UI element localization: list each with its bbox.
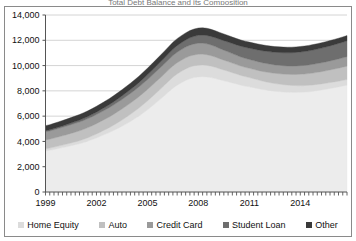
x-tick-label: 2014	[290, 198, 310, 208]
legend-swatch-icon	[223, 222, 229, 228]
x-axis-tick-group	[46, 192, 348, 196]
x-tick-label: 2005	[137, 198, 157, 208]
area-series-group	[46, 28, 348, 192]
y-tick-label: 10,000	[12, 61, 40, 71]
legend-home-equity[interactable]: Home Equity	[18, 220, 79, 230]
stacked-area-chart: 02,0004,0006,0008,00010,00012,00014,000 …	[0, 0, 356, 241]
x-axis-labels: 199920022005200820112014	[35, 198, 310, 208]
legend-label: Credit Card	[156, 220, 202, 230]
y-tick-label: 0	[34, 187, 39, 197]
y-tick-label: 2,000	[17, 162, 40, 172]
legend-credit-card[interactable]: Credit Card	[147, 220, 202, 230]
chart-legend: Home EquityAutoCredit CardStudent LoanOt…	[8, 215, 348, 235]
y-tick-label: 8,000	[17, 86, 40, 96]
legend-swatch-icon	[99, 222, 105, 228]
x-tick-label: 1999	[35, 198, 55, 208]
legend-student-loan[interactable]: Student Loan	[223, 220, 286, 230]
chart-plot-area: 02,0004,0006,0008,00010,00012,00014,000 …	[0, 0, 356, 241]
y-tick-label: 12,000	[12, 35, 40, 45]
x-tick-label: 2011	[240, 198, 259, 208]
legend-label: Auto	[108, 220, 127, 230]
y-tick-label: 6,000	[17, 111, 40, 121]
y-axis-labels: 02,0004,0006,0008,00010,00012,00014,000	[12, 10, 40, 197]
x-tick-label: 2002	[86, 198, 106, 208]
legend-swatch-icon	[306, 222, 312, 228]
legend-label: Other	[315, 220, 338, 230]
legend-swatch-icon	[147, 222, 153, 228]
legend-label: Student Loan	[232, 220, 286, 230]
y-tick-label: 4,000	[17, 137, 40, 147]
y-tick-label: 14,000	[12, 10, 40, 20]
chart-screenshot: Total Debt Balance and its Composition 0…	[0, 0, 356, 241]
legend-other[interactable]: Other	[306, 220, 338, 230]
legend-auto[interactable]: Auto	[99, 220, 127, 230]
legend-swatch-icon	[18, 222, 24, 228]
legend-label: Home Equity	[27, 220, 79, 230]
x-tick-label: 2008	[188, 198, 208, 208]
